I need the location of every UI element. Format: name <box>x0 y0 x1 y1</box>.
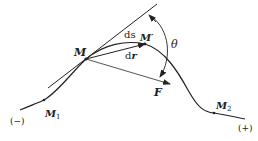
label-M: M <box>73 46 87 59</box>
point-M2 <box>213 112 216 115</box>
label-M2: M2 <box>215 100 232 113</box>
label-F: F <box>153 86 163 99</box>
label-M2-sub: 2 <box>227 105 231 113</box>
label-dr-r: r <box>131 50 137 61</box>
label-dr: dr <box>125 50 137 61</box>
theta-arc <box>151 16 167 77</box>
force-vector <box>86 59 170 84</box>
label-M-prime: M′ <box>139 32 154 43</box>
point-M-prime <box>144 43 147 46</box>
work-diagram: M M′ ds dr F θ M1 M2 (−) (+) <box>0 0 258 141</box>
label-M1: M1 <box>44 108 61 121</box>
label-positive-direction: (+) <box>238 123 253 133</box>
label-M1-sub: 1 <box>56 113 60 121</box>
label-ds-text: ds <box>124 29 136 40</box>
label-ds: ds <box>124 29 136 40</box>
label-theta: θ <box>171 38 178 51</box>
point-M1 <box>43 99 46 102</box>
label-M1-main: M <box>44 108 57 119</box>
label-M2-main: M <box>215 100 228 111</box>
label-negative-direction: (−) <box>10 116 25 126</box>
theta-arc-start-arrow <box>149 15 156 22</box>
